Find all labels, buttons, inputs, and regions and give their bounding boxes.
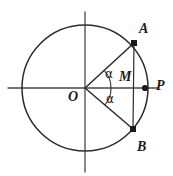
segment-ab xyxy=(133,43,134,129)
label-angle-upper: α xyxy=(105,68,113,80)
label-point-p: P xyxy=(156,79,165,93)
label-point-b: B xyxy=(137,140,146,154)
label-point-o: O xyxy=(68,90,78,104)
point-marker-a xyxy=(131,40,137,46)
point-marker-b xyxy=(130,126,136,132)
label-angle-lower: α xyxy=(106,93,114,105)
point-marker-p xyxy=(142,85,148,91)
geometry-figure: A B O M P α α xyxy=(0,0,173,176)
label-point-m: M xyxy=(119,70,131,84)
label-point-a: A xyxy=(139,22,148,36)
